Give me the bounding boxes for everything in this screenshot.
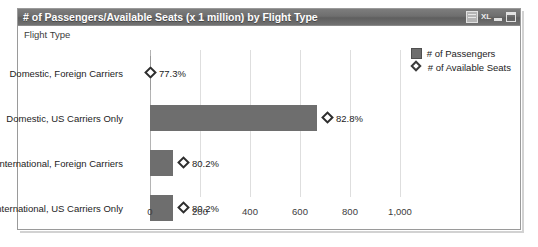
- available-seats-marker[interactable]: [145, 67, 156, 78]
- category-label: International, US Carriers Only: [0, 202, 123, 213]
- chart-category-row: International, Foreign Carriers80.2%: [18, 140, 520, 185]
- marker-value-label: 80.2%: [192, 157, 219, 168]
- x-axis-tick-label: 0: [147, 206, 152, 217]
- bar[interactable]: [150, 105, 317, 131]
- x-axis-tick-label: 800: [342, 206, 358, 217]
- x-axis-tick-label: 200: [192, 206, 208, 217]
- chart-canvas: Domestic, Foreign Carriers77.3%Domestic,…: [18, 26, 520, 229]
- minimize-icon[interactable]: [493, 12, 503, 22]
- chart-category-row: Domestic, US Carriers Only82.8%: [18, 95, 520, 140]
- x-axis-tick-label: 600: [292, 206, 308, 217]
- category-label: International, Foreign Carriers: [0, 157, 123, 168]
- window-shadow-right: [522, 11, 524, 233]
- available-seats-marker[interactable]: [178, 202, 189, 213]
- bar[interactable]: [150, 195, 173, 221]
- marker-value-label: 82.8%: [336, 112, 363, 123]
- excel-export-icon[interactable]: XL: [481, 12, 490, 22]
- chart-category-row: International, US Carriers Only80.2%: [18, 185, 520, 230]
- marker-value-label: 77.3%: [159, 67, 186, 78]
- window-shadow-bottom: [20, 231, 524, 233]
- window-title: # of Passengers/Available Seats (x 1 mil…: [23, 11, 318, 23]
- bar[interactable]: [150, 150, 173, 176]
- x-axis-tick-label: 400: [242, 206, 258, 217]
- category-label: Domestic, Foreign Carriers: [10, 67, 124, 78]
- maximize-icon[interactable]: [506, 12, 516, 22]
- chart-window: # of Passengers/Available Seats (x 1 mil…: [17, 8, 521, 230]
- screenshot-root: # of Passengers/Available Seats (x 1 mil…: [0, 0, 538, 247]
- plot-area: Flight Type # of Passengers # of Availab…: [18, 26, 520, 229]
- window-titlebar[interactable]: # of Passengers/Available Seats (x 1 mil…: [18, 9, 520, 26]
- available-seats-marker[interactable]: [322, 112, 333, 123]
- window-controls: XL: [466, 11, 516, 23]
- available-seats-marker[interactable]: [178, 157, 189, 168]
- worksheet-icon[interactable]: [466, 11, 478, 23]
- category-label: Domestic, US Carriers Only: [6, 112, 123, 123]
- x-axis-tick-label: 1,000: [388, 206, 412, 217]
- chart-category-row: Domestic, Foreign Carriers77.3%: [18, 50, 520, 95]
